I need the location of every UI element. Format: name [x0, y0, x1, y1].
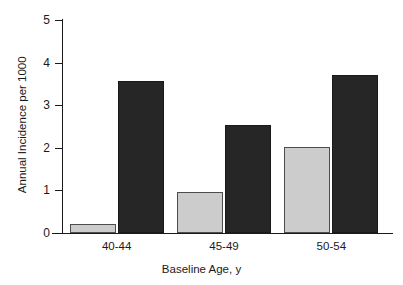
y-axis-tick-label-text: 0: [32, 227, 50, 239]
bar-45-49-dark-series: [225, 125, 271, 233]
bar-40-44-dark-series: [118, 81, 164, 233]
y-axis-tick-label: 2: [32, 142, 50, 154]
x-axis-tick-label: 40-44: [63, 241, 170, 253]
bar-50-54-light-series: [284, 147, 330, 233]
y-axis-tick: [55, 105, 62, 106]
y-axis-tick-label-text: 5: [32, 14, 50, 26]
x-axis-spine: [52, 233, 393, 234]
x-axis-title: Baseline Age, y: [0, 264, 403, 276]
bar-chart-figure: 012345 40-4445-4950-54 Baseline Age, y A…: [0, 0, 403, 285]
y-axis-title: Annual Incidence per 1000: [17, 25, 29, 225]
y-axis-tick: [55, 63, 62, 64]
y-axis-tick: [55, 148, 62, 149]
y-axis-tick-label-text: 2: [32, 142, 50, 154]
y-axis-tick: [55, 233, 62, 234]
y-axis-tick: [55, 190, 62, 191]
y-axis-tick: [55, 20, 62, 21]
y-axis-tick-label-text: 3: [32, 99, 50, 111]
x-axis-tick-label: 50-54: [278, 241, 385, 253]
bar-45-49-light-series: [177, 192, 223, 233]
y-axis-tick-label-text: 4: [32, 57, 50, 69]
y-axis-tick-label: 5: [32, 14, 50, 26]
bar-40-44-light-series: [70, 224, 116, 233]
y-axis-tick-label: 1: [32, 184, 50, 196]
y-axis-tick-label-text: 1: [32, 184, 50, 196]
plot-area: [63, 20, 385, 233]
x-axis-tick-label: 45-49: [170, 241, 277, 253]
y-axis-tick-label: 0: [32, 227, 50, 239]
y-axis-tick-label: 4: [32, 57, 50, 69]
bar-50-54-dark-series: [332, 75, 378, 233]
y-axis-tick-label: 3: [32, 99, 50, 111]
